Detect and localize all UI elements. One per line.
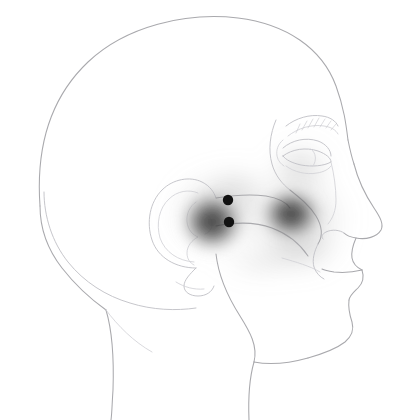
head-profile-illustration: Lateral head profile with referred pain … [0,0,405,420]
trigger-point-upper[interactable] [223,195,233,205]
trigger-point-lower[interactable] [224,217,234,227]
pain-zone-preauricular-essential [174,186,250,258]
pain-zone-maxillary-essential [255,183,327,245]
figure-root: Lateral head profile with referred pain … [0,0,405,420]
